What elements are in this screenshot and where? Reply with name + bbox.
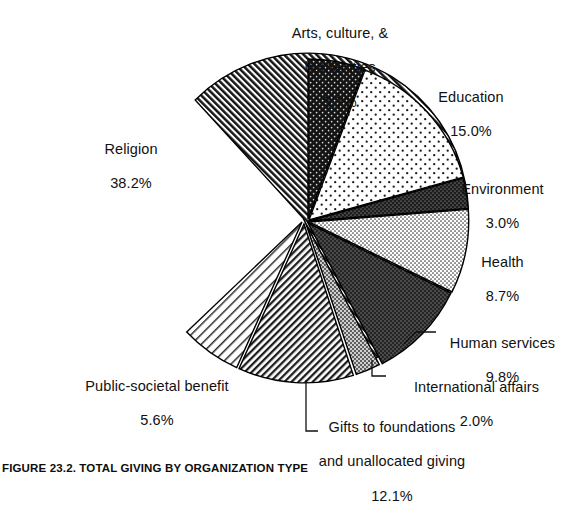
pie-label-arts-line1: Arts, culture, & <box>240 25 440 42</box>
pie-label-education-text: Education <box>398 89 544 106</box>
pie-value-religion: 38.2% <box>66 175 196 192</box>
figure-caption: FIGURE 23.2. TOTAL GIVING BY ORGANIZATIO… <box>2 462 308 474</box>
pie-label-international-affairs-text: International affairs <box>388 379 565 396</box>
pie-label-religion-text: Religion <box>66 141 196 158</box>
pie-label-public-societal-benefit: Public-societal benefit 5.6% <box>62 361 252 447</box>
pie-label-health-text: Health <box>440 254 565 271</box>
pie-value-public-societal-benefit: 5.6% <box>62 412 252 429</box>
pie-value-health: 8.7% <box>440 288 565 305</box>
pie-label-religion: Religion 38.2% <box>66 124 196 210</box>
pie-label-health: Health 8.7% <box>440 237 565 323</box>
pie-value-education: 15.0% <box>398 123 544 140</box>
pie-label-human-services-text: Human services <box>440 335 565 352</box>
pie-label-gifts-line1: Gifts to foundations <box>292 419 492 436</box>
pie-label-gifts-to-foundations: Gifts to foundations and unallocated giv… <box>292 402 492 505</box>
pie-label-environment-text: Environment <box>440 181 565 198</box>
pie-label-gifts-line2: and unallocated giving <box>292 453 492 470</box>
pie-value-gifts: 12.1% <box>292 488 492 505</box>
pie-value-environment: 3.0% <box>440 215 565 232</box>
pie-label-public-societal-benefit-text: Public-societal benefit <box>62 378 252 395</box>
pie-label-education: Education 15.0% <box>398 72 544 158</box>
